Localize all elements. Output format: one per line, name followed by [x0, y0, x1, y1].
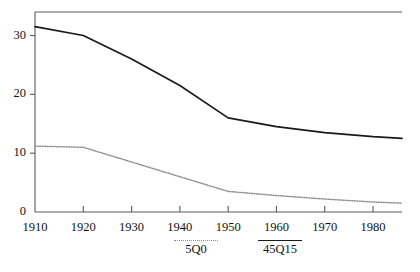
- legend-entry-5q0: 5Q0: [148, 240, 244, 256]
- y-tick-label: 10: [0, 146, 26, 159]
- chart-legend: 5Q0 45Q15: [0, 240, 420, 272]
- x-tick-label: 1910: [12, 221, 58, 234]
- chart-figure: 0102030 19101920193019401950196019701980…: [0, 0, 420, 272]
- series-line-5q0: [35, 146, 402, 203]
- x-tick-label: 1960: [253, 221, 299, 234]
- x-tick-label: 1930: [109, 221, 155, 234]
- y-axis-tick-marks: [30, 36, 35, 154]
- x-tick-label: 1970: [302, 221, 348, 234]
- x-tick-label: 1980: [350, 221, 396, 234]
- legend-swatch-dotted-icon: [174, 240, 218, 241]
- x-tick-label: 1920: [60, 221, 106, 234]
- y-tick-label: 0: [0, 205, 26, 218]
- x-tick-label: 1940: [157, 221, 203, 234]
- legend-swatch-solid-icon: [258, 240, 302, 241]
- legend-label-5q0: 5Q0: [148, 242, 244, 256]
- x-tick-label: 1950: [205, 221, 251, 234]
- y-tick-label: 30: [0, 29, 26, 42]
- legend-entry-45q15: 45Q15: [232, 240, 328, 256]
- series-line-45q15: [35, 27, 402, 139]
- legend-label-45q15: 45Q15: [232, 242, 328, 256]
- y-tick-label: 20: [0, 87, 26, 100]
- x-axis-tick-marks: [83, 206, 373, 212]
- data-series-layer: [35, 27, 402, 203]
